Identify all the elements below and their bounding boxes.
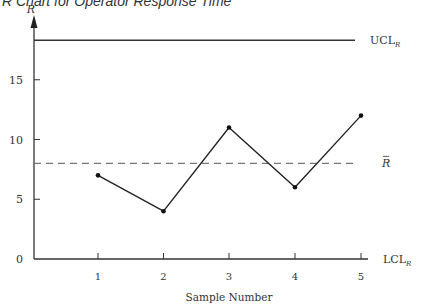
ucl_r-label: UCLR: [370, 34, 401, 49]
x-tick-label: 4: [292, 271, 298, 282]
x-tick-label: 2: [160, 271, 166, 282]
y-tick-label: 10: [9, 134, 23, 147]
data-point: [161, 209, 166, 214]
data-point: [359, 113, 364, 118]
x-axis-label: Sample Number: [186, 291, 274, 303]
y-tick-label: 0: [16, 253, 23, 266]
data-point: [96, 173, 101, 178]
x-tick-label: 3: [226, 271, 232, 282]
data-point: [227, 125, 232, 130]
y-tick-label: 5: [16, 193, 23, 206]
y-tick-label: 15: [9, 74, 23, 87]
r-bar-label: R: [381, 157, 390, 170]
data-point: [293, 185, 298, 190]
r-control-chart: R051015UCLRRLCLR12345Sample Number: [0, 0, 434, 307]
x-tick-label: 5: [358, 271, 364, 282]
y-axis-arrow-icon: [31, 15, 38, 28]
lcl_r-label: LCLR: [383, 253, 412, 268]
y-axis-label: R: [26, 3, 35, 16]
x-tick-label: 1: [95, 271, 101, 282]
